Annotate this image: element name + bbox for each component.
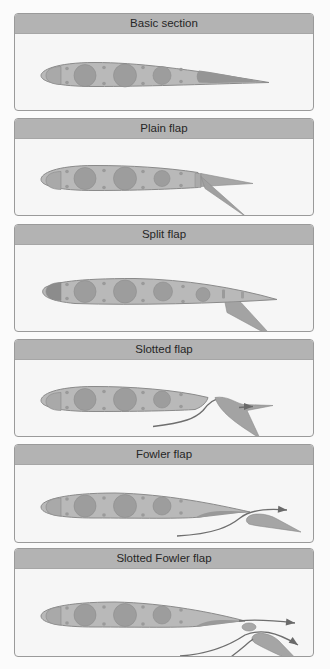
rivet-dot [141, 299, 145, 303]
rivet-dot [65, 406, 69, 410]
rivet-dot [102, 622, 106, 626]
rivet-dot [102, 186, 106, 190]
fowler-flap [252, 633, 302, 657]
rivet-dot [102, 169, 106, 173]
rivet-dot [102, 513, 106, 517]
lightening-hole [74, 65, 96, 87]
rivet-dot [179, 184, 183, 188]
rivet-dot [141, 66, 145, 70]
lightening-hole [114, 64, 137, 87]
airfoil-illustration [15, 360, 313, 437]
rivet-dot [102, 66, 106, 70]
trailing-edge-cell [197, 71, 260, 83]
rivet-dot [65, 497, 69, 501]
lightening-hole [74, 168, 96, 190]
rivet-dot [141, 282, 145, 286]
lightening-hole [196, 288, 210, 302]
lightening-hole [114, 604, 137, 627]
lightening-hole [154, 282, 173, 301]
rivet-dot [179, 608, 183, 612]
rivet-dot [141, 513, 145, 517]
slotted-airfoil-icon [15, 360, 313, 437]
panel-slotted: Slotted flap [14, 339, 314, 437]
rivet-dot [179, 499, 183, 503]
slotted-fowler-airfoil-icon [15, 569, 313, 657]
rivet-dot [179, 393, 183, 397]
rivet-dot [102, 299, 106, 303]
fowler-airfoil-icon [15, 465, 313, 543]
rivet-dot [141, 496, 145, 500]
arrowhead [278, 506, 287, 513]
rivet-dot [102, 82, 106, 86]
lightening-hole [74, 389, 96, 411]
rivet-dot [179, 172, 183, 176]
rivet-dot [65, 606, 69, 610]
lightening-hole [154, 171, 170, 187]
airfoil-illustration [15, 569, 313, 657]
rivet-dot [102, 407, 106, 411]
rivet-dot [141, 622, 145, 626]
panel-title: Split flap [15, 225, 313, 245]
lightening-hole [114, 280, 137, 303]
panel-split: Split flap [14, 224, 314, 332]
rivet-dot [179, 405, 183, 409]
rivet-dot [179, 68, 183, 72]
panel-title: Basic section [15, 14, 313, 34]
rivet-dot [65, 297, 69, 301]
rivet-dot [141, 391, 145, 395]
rivet-dot [65, 185, 69, 189]
lightening-hole [153, 497, 171, 515]
rivet-dot [102, 605, 106, 609]
rivet-dot [179, 511, 183, 515]
panel-basic: Basic section [14, 13, 314, 111]
rivet-dot [65, 170, 69, 174]
airfoil-illustration [15, 139, 313, 216]
lightening-hole [74, 281, 96, 303]
lightening-hole [74, 604, 96, 626]
arrowhead [286, 619, 295, 626]
rivet-dot [181, 285, 185, 289]
panel-plain: Plain flap [14, 118, 314, 216]
lightening-hole [153, 606, 171, 624]
panel-title: Slotted flap [15, 340, 313, 360]
rivet-dot [141, 170, 145, 174]
fowler-flap [246, 514, 301, 532]
rivet-dot [65, 81, 69, 85]
rivet-dot [141, 82, 145, 86]
arrowhead [289, 637, 298, 645]
rivet-dot [65, 621, 69, 625]
panel-title: Plain flap [15, 119, 313, 139]
basic-airfoil-icon [15, 34, 313, 111]
rivet-dot [102, 282, 106, 286]
rivet-dot [141, 605, 145, 609]
split-airfoil-icon [15, 245, 313, 332]
rivet-dot [65, 391, 69, 395]
panel-fowler: Fowler flap [14, 444, 314, 543]
airfoil-illustration [15, 245, 313, 332]
rivet-dot [141, 407, 145, 411]
rivet-dot [181, 300, 185, 304]
flap-vane [242, 623, 256, 631]
rivet-dot [179, 620, 183, 624]
plain-airfoil-icon [15, 139, 313, 216]
lightening-hole [114, 388, 137, 411]
rivet-dot [179, 80, 183, 84]
rivet-dot [65, 283, 69, 287]
lightening-hole [114, 167, 137, 190]
rivet-dot [102, 390, 106, 394]
rivet-dot [141, 186, 145, 190]
panel-title: Fowler flap [15, 445, 313, 465]
split-flap [225, 303, 273, 333]
panel-title: Slotted Fowler flap [15, 549, 313, 569]
lightening-hole [74, 495, 96, 517]
lightening-hole [114, 495, 137, 518]
lightening-hole [153, 67, 171, 85]
rivet-dot [65, 512, 69, 516]
airfoil-illustration [15, 34, 313, 111]
rivet-dot [65, 67, 69, 71]
panel-slotted-fowler: Slotted Fowler flap [14, 548, 314, 657]
lightening-hole [154, 391, 171, 408]
airfoil-illustration [15, 465, 313, 543]
rivet-dot [102, 496, 106, 500]
